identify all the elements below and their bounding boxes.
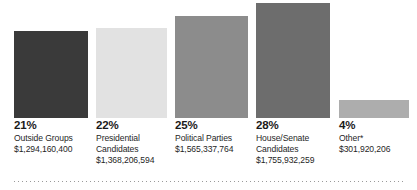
bar-outside-groups [14,31,88,118]
legend-amount-presidential-candidates: $1,368,206,594 [96,155,176,166]
legend-label-other-line-1: Other* [339,133,417,144]
legend-amount-political-parties: $1,565,337,764 [175,144,257,155]
legend-label-outside-groups-line-1: Outside Groups [14,133,94,144]
legend-amount-outside-groups: $1,294,160,400 [14,144,94,155]
legend-percent-other: 4% [339,119,417,132]
footer-dotted-divider [14,181,404,182]
bar-column-other [339,100,409,118]
bar-column-house-senate-candidates [256,3,330,118]
legend-amount-other: $301,920,206 [339,144,417,155]
bar-column-outside-groups [14,31,88,118]
legend-item-house-senate-candidates: 28% House/Senate Candidates $1,755,932,2… [256,119,338,167]
legend-label-presidential-candidates-line-1: Presidential [96,133,176,144]
legend-amount-house-senate-candidates: $1,755,932,259 [256,155,338,166]
bar-political-parties [175,16,248,118]
bar-column-political-parties [175,16,248,118]
bars-plot-area [0,0,417,118]
legend-percent-presidential-candidates: 22% [96,119,176,132]
legend-item-outside-groups: 21% Outside Groups $1,294,160,400 [14,119,94,155]
bar-chart: 21% Outside Groups $1,294,160,400 22% Pr… [0,0,417,190]
legend-item-other: 4% Other* $301,920,206 [339,119,417,155]
legend-percent-political-parties: 25% [175,119,257,132]
legend-label-presidential-candidates-line-2: Candidates [96,144,176,155]
legend-percent-outside-groups: 21% [14,119,94,132]
bar-column-presidential-candidates [96,28,167,118]
legend-percent-house-senate-candidates: 28% [256,119,338,132]
legend-label-house-senate-candidates-line-2: Candidates [256,144,338,155]
legend-label-house-senate-candidates-line-1: House/Senate [256,133,338,144]
legend-label-political-parties-line-1: Political Parties [175,133,257,144]
bar-legend: 21% Outside Groups $1,294,160,400 22% Pr… [0,119,417,181]
bar-house-senate-candidates [256,3,330,118]
legend-item-political-parties: 25% Political Parties $1,565,337,764 [175,119,257,155]
bar-presidential-candidates [96,28,167,118]
legend-item-presidential-candidates: 22% Presidential Candidates $1,368,206,5… [96,119,176,167]
bar-other [339,100,409,118]
